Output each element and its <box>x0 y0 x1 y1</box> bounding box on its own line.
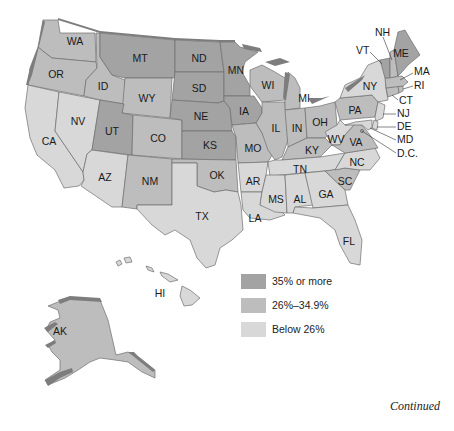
label-fl: FL <box>343 235 355 247</box>
legend-label-high: 35% or more <box>272 275 332 287</box>
label-de: DE <box>397 120 412 132</box>
label-dc: D.C. <box>397 147 418 159</box>
label-nh: NH <box>375 26 390 38</box>
label-wy: WY <box>139 92 156 104</box>
label-mi: MI <box>298 92 310 104</box>
label-nm: NM <box>142 175 158 187</box>
label-nv: NV <box>71 115 86 127</box>
legend-label-low: Below 26% <box>272 323 325 335</box>
label-ut: UT <box>105 125 120 137</box>
label-mt: MT <box>132 52 148 64</box>
label-ia: IA <box>239 105 249 117</box>
legend-item-low: Below 26% <box>241 317 332 341</box>
label-wv: WV <box>328 133 345 145</box>
label-mn: MN <box>228 64 244 76</box>
label-tx: TX <box>195 210 208 222</box>
legend-item-high: 35% or more <box>241 269 332 293</box>
label-ga: GA <box>318 188 333 200</box>
legend-item-mid: 26%–34.9% <box>241 293 332 317</box>
state-de[interactable] <box>372 120 378 130</box>
label-ks: KS <box>203 139 217 151</box>
label-az: AZ <box>98 171 112 183</box>
label-tn: TN <box>293 163 307 175</box>
legend-label-mid: 26%–34.9% <box>272 299 329 311</box>
label-ct: CT <box>399 94 414 106</box>
callout-line-ct <box>392 95 398 100</box>
label-md: MD <box>397 133 414 145</box>
label-wa: WA <box>67 35 84 47</box>
label-oh: OH <box>312 116 328 128</box>
us-choropleth-map: WA OR CA NV ID MT WY UT CO AZ NM ND SD N… <box>0 0 454 431</box>
label-ne: NE <box>194 110 209 122</box>
legend-swatch-mid <box>241 298 266 313</box>
label-sc: SC <box>338 175 353 187</box>
label-ri: RI <box>414 79 425 91</box>
label-il: IL <box>272 122 281 134</box>
label-nd: ND <box>191 52 207 64</box>
label-hi: HI <box>155 287 166 299</box>
label-nj: NJ <box>397 107 410 119</box>
callout-line-ri <box>403 86 413 89</box>
state-ri[interactable] <box>398 86 403 93</box>
label-ky: KY <box>305 144 319 156</box>
label-wi: WI <box>262 79 275 91</box>
legend: 35% or more 26%–34.9% Below 26% <box>241 269 332 341</box>
label-nc: NC <box>349 156 365 168</box>
label-id: ID <box>98 80 109 92</box>
label-ar: AR <box>246 175 261 187</box>
legend-swatch-high <box>241 274 266 289</box>
label-vt: VT <box>356 44 370 56</box>
legend-swatch-low <box>241 322 266 337</box>
label-ma: MA <box>414 65 430 77</box>
label-va: VA <box>349 136 362 148</box>
label-sd: SD <box>192 82 207 94</box>
continued-note: Continued <box>390 399 440 414</box>
label-ca: CA <box>42 135 57 147</box>
label-al: AL <box>294 193 307 205</box>
callout-line-md <box>370 128 396 140</box>
label-co: CO <box>150 132 166 144</box>
label-la: LA <box>249 212 262 224</box>
label-ak: AK <box>53 325 67 337</box>
label-ok: OK <box>209 169 224 181</box>
label-mo: MO <box>245 142 262 154</box>
callout-line-nh <box>383 37 392 60</box>
label-pa: PA <box>348 104 361 116</box>
label-or: OR <box>48 68 64 80</box>
label-ms: MS <box>268 193 284 205</box>
label-ny: NY <box>363 80 378 92</box>
label-in: IN <box>292 122 303 134</box>
label-me: ME <box>393 47 409 59</box>
